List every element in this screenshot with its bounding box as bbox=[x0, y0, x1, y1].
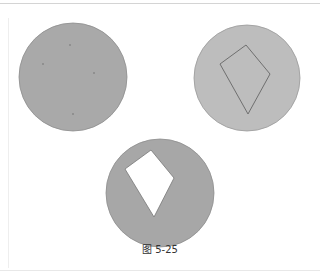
plain-circle bbox=[19, 23, 127, 131]
figure-canvas bbox=[0, 0, 320, 274]
circle-with-kite-outline bbox=[194, 25, 300, 131]
figure-caption: 图 5-25 bbox=[0, 241, 320, 256]
bottom-rule bbox=[0, 270, 320, 271]
circle-with-kite-hole bbox=[106, 139, 214, 247]
